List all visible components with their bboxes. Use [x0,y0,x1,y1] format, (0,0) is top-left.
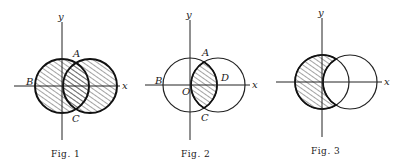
fig1-label-y: y [57,11,64,22]
fig1-label-x: x [122,80,128,91]
fig2-label-o: O [182,86,190,97]
figure-3: y x Fig. 3 [276,7,390,156]
figure-1: y x A B C Fig. 1 [14,11,128,159]
fig2-label-c: C [201,112,209,123]
fig1-caption: Fig. 1 [51,149,80,159]
fig2-label-x: x [252,79,258,90]
fig2-label-b: B [154,75,162,86]
figure-2: y x A B O D C Fig. 2 [145,9,258,159]
fig1-label-b: B [25,76,33,87]
fig3-caption: Fig. 3 [311,146,340,156]
fig2-label-a: A [201,47,209,58]
fig1-label-c: C [72,113,80,124]
fig2-caption: Fig. 2 [181,149,210,159]
fig2-label-d: D [220,72,229,83]
fig3-label-y: y [317,7,324,18]
fig1-label-a: A [72,48,80,59]
fig3-label-x: x [384,76,390,87]
fig2-label-y: y [185,9,192,20]
